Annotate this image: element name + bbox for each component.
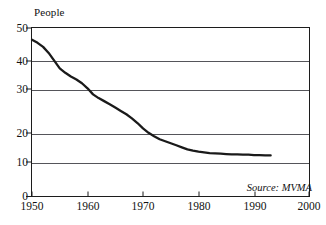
gridline-40 — [32, 61, 309, 62]
y-tick-label-40: 40 — [2, 56, 28, 68]
x-tick-label-1990: 1990 — [244, 201, 267, 213]
y-tick-label-30: 30 — [2, 84, 28, 96]
y-tick-label-50: 50 — [2, 23, 28, 35]
chart-container: People 50 40 30 20 10 0 1950 1960 1970 1… — [0, 0, 326, 225]
x-tick-label-1960: 1960 — [77, 201, 100, 213]
gridline-10 — [32, 163, 309, 164]
y-tick-label-20: 20 — [2, 128, 28, 140]
x-tick-label-1980: 1980 — [188, 201, 211, 213]
x-tick-label-1950: 1950 — [21, 201, 44, 213]
source-annotation: Source: MVMA — [247, 182, 312, 193]
gridline-30 — [32, 90, 309, 91]
y-axis-title: People — [34, 6, 65, 18]
x-tick-label-2000: 2000 — [298, 201, 321, 213]
y-tick-label-10: 10 — [2, 157, 28, 169]
plot-area — [31, 27, 310, 197]
x-tick-label-1970: 1970 — [132, 201, 155, 213]
y-axis: 50 40 30 20 10 0 — [0, 0, 28, 225]
gridline-20 — [32, 134, 309, 135]
